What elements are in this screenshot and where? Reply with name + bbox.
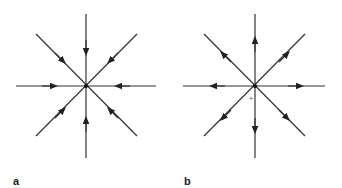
arrow-southwest-inward [55,110,63,118]
arrow-northeast-outward [279,54,287,62]
arrow-southeast-inward [110,110,118,118]
arrow-southeast-outward [279,110,287,118]
panel-label-b: b [184,176,191,187]
panel-label-a: a [13,176,19,187]
plus-charge-symbol: + [249,94,254,103]
arrow-northeast-inward [110,53,118,61]
center-point-b [253,84,257,88]
center-point-a [84,84,88,88]
arrow-northwest-outward [223,54,231,62]
arrow-southwest-outward [223,110,231,118]
panel-a-sink-diagram [16,14,156,158]
panel-b-source-diagram [183,14,325,158]
arrow-northwest-inward [55,53,63,61]
vector-field-figure: + [0,0,342,188]
